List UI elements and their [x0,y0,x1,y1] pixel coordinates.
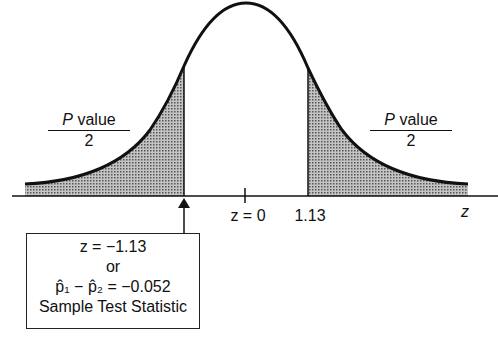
axis-label: z [458,203,472,221]
box-proportion-diff: p̂₁ − p̂₂ = −0.052 [27,277,199,297]
left-tail-label: P value 2 [48,110,130,150]
box-or: or [27,257,199,277]
normal-curve [25,3,468,184]
test-statistic-box: z = −1.13 or p̂₁ − p̂₂ = −0.052 Sample T… [26,233,200,329]
tick-label-right: 1.13 [290,207,330,225]
box-caption: Sample Test Statistic [27,297,199,317]
box-z-value: z = −1.13 [27,237,199,257]
tick-label-z0: z = 0 [226,207,270,225]
right-tail-label: P value 2 [370,110,452,150]
